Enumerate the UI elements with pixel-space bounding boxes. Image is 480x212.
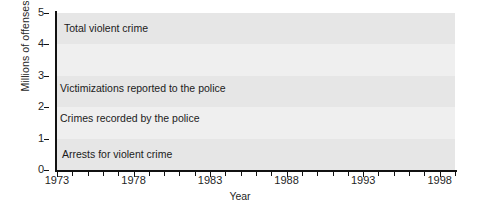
background-band xyxy=(57,44,455,75)
x-axis-tick-label: 1998 xyxy=(415,174,465,186)
y-axis-tick-mark xyxy=(44,76,49,77)
y-axis-tick-mark xyxy=(44,44,49,45)
x-axis-title: Year xyxy=(0,190,480,202)
x-axis-tick-label: 1973 xyxy=(32,174,82,186)
violent-crime-line-chart: Millions of offenses 543210 197319781983… xyxy=(0,0,480,212)
x-axis-tick-label: 1978 xyxy=(109,174,159,186)
series-label-crimes-recorded: Crimes recorded by the police xyxy=(60,112,199,124)
series-label-victimizations-reported: Victimizations reported to the police xyxy=(60,82,226,94)
x-axis-tick-label: 1993 xyxy=(338,174,388,186)
x-axis-tick-label: 1983 xyxy=(185,174,235,186)
y-axis-tick-mark xyxy=(44,13,49,14)
series-label-total-violent-crime: Total violent crime xyxy=(64,22,148,34)
y-axis-tick-label: 2 xyxy=(22,101,44,112)
series-label-arrests: Arrests for violent crime xyxy=(62,148,172,160)
y-axis-tick-mark xyxy=(44,170,49,171)
y-axis-tick-label: 1 xyxy=(22,133,44,144)
y-axis-tick-mark xyxy=(44,139,49,140)
y-axis-tick-label: 5 xyxy=(22,7,44,18)
x-axis-tick-label: 1988 xyxy=(262,174,312,186)
y-axis-tick-label: 4 xyxy=(22,38,44,49)
y-axis-line xyxy=(55,11,57,172)
x-axis-tick-labels: 197319781983198819931998 xyxy=(0,174,480,190)
y-axis-tick-label: 3 xyxy=(22,70,44,81)
y-axis-tick-mark xyxy=(44,107,49,108)
